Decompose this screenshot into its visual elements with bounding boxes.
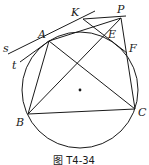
figure-caption: 图 T4-34 [53, 155, 95, 165]
geometry-figure: A B C P K E F s t 图 T4-34 [0, 0, 149, 165]
label-P: P [116, 3, 125, 16]
label-t: t [12, 59, 17, 72]
label-A: A [37, 28, 46, 41]
diagram-canvas: A B C P K E F s t 图 T4-34 [0, 0, 149, 165]
line-t [20, 41, 49, 62]
label-s: s [3, 42, 9, 55]
label-B: B [15, 116, 24, 129]
segment-KF [83, 19, 127, 53]
label-E: E [107, 28, 116, 41]
segment-BC [28, 109, 135, 114]
label-F: F [128, 42, 137, 55]
segment-AC [49, 41, 135, 109]
center-dot [79, 89, 82, 92]
label-C: C [138, 106, 147, 119]
segment-PC [121, 18, 135, 109]
label-K: K [70, 6, 80, 19]
